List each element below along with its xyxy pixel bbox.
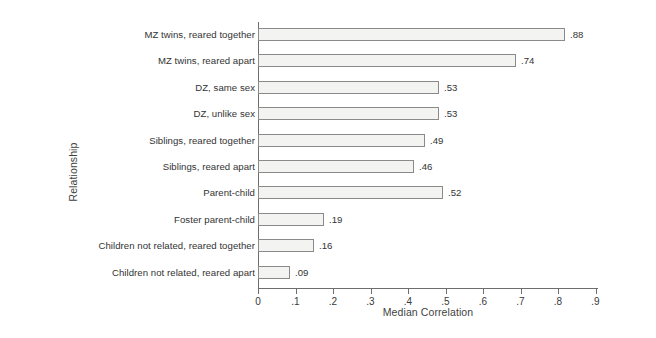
x-axis-tick: [521, 289, 522, 294]
category-label: MZ twins, reared apart: [60, 54, 255, 68]
bar: [258, 186, 443, 199]
bar-value-label: .46: [419, 160, 432, 173]
bar-value-label: .52: [448, 186, 461, 199]
x-axis-tick: [596, 289, 597, 294]
x-axis-tick: [296, 289, 297, 294]
x-axis-tick: [558, 289, 559, 294]
category-label: Foster parent-child: [60, 213, 255, 227]
category-label: MZ twins, reared together: [60, 28, 255, 42]
bar: [258, 81, 439, 94]
bar: [258, 107, 439, 120]
x-axis-line: [258, 288, 598, 289]
bar: [258, 213, 324, 226]
category-label: Children not related, reared together: [60, 239, 255, 253]
bar: [258, 266, 290, 279]
plot-area: .88.74.53.53.49.46.52.19.16.090.1.2.3.4.…: [258, 22, 598, 288]
bar-value-label: .53: [444, 107, 457, 120]
x-axis-tick: [408, 289, 409, 294]
category-label: Siblings, reared together: [60, 134, 255, 148]
category-label: Parent-child: [60, 186, 255, 200]
x-axis-tick: [371, 289, 372, 294]
bar-value-label: .09: [295, 266, 308, 279]
bar: [258, 54, 516, 67]
bar-value-label: .19: [329, 213, 342, 226]
category-label: DZ, same sex: [60, 81, 255, 95]
bar: [258, 239, 314, 252]
x-axis-title: Median Correlation: [258, 306, 598, 318]
bar: [258, 160, 414, 173]
x-axis-tick: [258, 289, 259, 294]
category-label: DZ, unlike sex: [60, 107, 255, 121]
median-correlation-bar-chart: Relationship MZ twins, reared togetherMZ…: [0, 0, 656, 338]
x-axis-tick: [333, 289, 334, 294]
bar-value-label: .53: [444, 81, 457, 94]
bar: [258, 28, 565, 41]
x-axis-tick: [446, 289, 447, 294]
category-label: Children not related, reared apart: [60, 266, 255, 280]
x-axis-tick: [483, 289, 484, 294]
bar-value-label: .74: [521, 54, 534, 67]
bar-value-label: .49: [430, 134, 443, 147]
bar-value-label: .88: [570, 28, 583, 41]
bar-value-label: .16: [319, 239, 332, 252]
category-label: Siblings, reared apart: [60, 160, 255, 174]
category-label-column: MZ twins, reared togetherMZ twins, reare…: [60, 22, 255, 288]
bar: [258, 134, 425, 147]
